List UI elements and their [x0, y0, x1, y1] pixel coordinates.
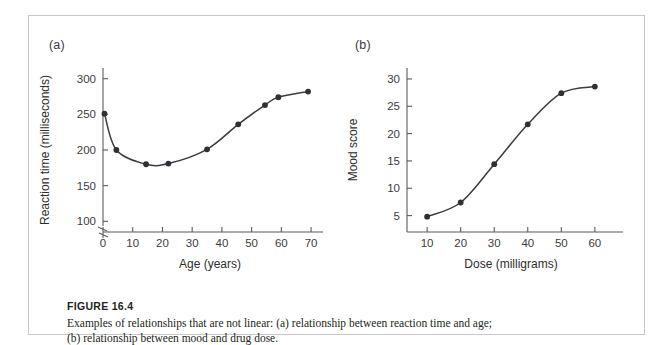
data-point	[305, 89, 311, 95]
figure-caption-block: FIGURE 16.4 Examples of relationships th…	[67, 300, 647, 345]
x-tick-label: 40	[215, 237, 228, 249]
data-curve	[104, 92, 308, 166]
figure-number-label: FIGURE 16.4	[67, 300, 647, 312]
x-tick-label: 30	[186, 237, 199, 249]
y-tick-label: 150	[77, 180, 96, 192]
x-tick-label: 20	[454, 237, 467, 249]
data-point	[275, 94, 281, 100]
mood-vs-dose-chart: 51015202530102030405060Dose (milligrams)…	[335, 34, 635, 279]
data-point	[525, 121, 531, 127]
data-point	[424, 214, 430, 220]
data-point	[113, 147, 119, 153]
y-axis-title: Reaction time (milliseconds)	[38, 75, 52, 225]
x-tick-label: 40	[521, 237, 534, 249]
data-point	[592, 84, 598, 90]
data-point	[102, 111, 108, 117]
x-tick-label: 30	[488, 237, 501, 249]
reaction-time-vs-age-chart: 100150200250300010203040506070Age (years…	[35, 34, 335, 279]
x-tick-label: 70	[305, 237, 318, 249]
x-axis-title: Dose (milligrams)	[464, 257, 557, 271]
y-tick-label: 20	[387, 128, 400, 140]
chart-panel-b: (b) 51015202530102030405060Dose (milligr…	[335, 34, 635, 279]
x-axis-title: Age (years)	[179, 257, 241, 271]
y-tick-label: 25	[387, 100, 400, 112]
y-tick-label: 30	[387, 73, 400, 85]
x-tick-label: 10	[126, 237, 139, 249]
y-axis-title: Mood score	[346, 118, 360, 181]
y-tick-label: 100	[77, 215, 96, 227]
x-tick-label: 50	[245, 237, 258, 249]
x-tick-label: 60	[275, 237, 288, 249]
y-tick-label: 200	[77, 144, 96, 156]
data-point	[235, 121, 241, 127]
x-tick-label: 10	[421, 237, 434, 249]
y-tick-label: 250	[77, 108, 96, 120]
x-tick-label: 20	[156, 237, 169, 249]
y-tick-label: 10	[387, 182, 400, 194]
chart-panel-a: (a) 100150200250300010203040506070Age (y…	[35, 34, 335, 279]
data-curve	[427, 87, 595, 217]
data-point	[143, 161, 149, 167]
data-point	[458, 200, 464, 206]
data-point	[204, 146, 210, 152]
data-point	[165, 161, 171, 167]
figure-caption-text: Examples of relationships that are not l…	[67, 316, 497, 345]
y-tick-label: 5	[394, 210, 400, 222]
data-point	[491, 161, 497, 167]
y-tick-label: 15	[387, 155, 400, 167]
x-tick-label: 0	[100, 237, 106, 249]
data-point	[262, 102, 268, 108]
x-tick-label: 50	[555, 237, 568, 249]
figure-frame: (a) 100150200250300010203040506070Age (y…	[28, 15, 645, 335]
x-tick-label: 60	[588, 237, 601, 249]
data-point	[558, 90, 564, 96]
y-tick-label: 300	[77, 73, 96, 85]
